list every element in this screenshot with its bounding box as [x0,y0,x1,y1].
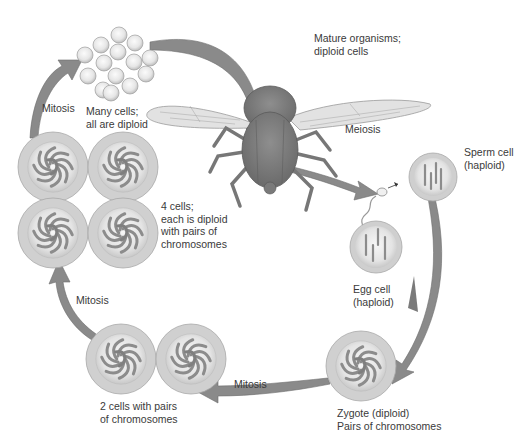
small-cell [93,37,109,53]
four-cell-stage-cell [18,132,88,202]
small-cell [80,68,96,84]
label-many-cells: Many cells; all are diploid [86,105,148,130]
small-cell [96,55,112,71]
fruit-fly-illustration [147,86,431,210]
zygote-cell [326,331,396,401]
label-meiosis: Meiosis [345,123,381,136]
small-cell [110,44,126,60]
label-two-cells: 2 cells with pairs of chromosomes [100,400,178,425]
small-cell [77,47,93,63]
diploid-cells [18,132,396,401]
label-mature-organisms: Mature organisms; diploid cells [314,32,401,57]
four-cell-stage-cell [88,198,158,268]
label-egg-cell: Egg cell (haploid) [353,283,394,308]
sperm-cell [409,153,457,201]
small-cell [122,78,138,94]
egg-cell [350,221,402,273]
four-cell-stage-cell [18,198,88,268]
small-cell [103,85,119,101]
two-cell-stage-cell [86,324,156,394]
label-four-cells: 4 cells; each is diploid with pairs of c… [161,200,228,250]
label-mitosis-2: Mitosis [76,294,109,307]
fly-left-wing [147,106,250,128]
small-cell [127,35,143,51]
two-cell-stage-cell [156,324,226,394]
many-cells-cluster [77,27,158,101]
fly-head [264,182,276,194]
fly-abdomen [242,112,298,188]
label-mitosis-3: Mitosis [42,102,75,115]
label-sperm-cell: Sperm cell (haploid) [464,146,514,171]
arrow-fertilization [392,186,442,384]
small-cell [126,54,142,70]
arrow-mitosis-3 [30,60,82,138]
arrow-egg-to-zygote [408,276,418,312]
four-cell-stage-cell [88,132,158,202]
small-cell [108,68,124,84]
small-cell [111,27,127,43]
small-cell [142,50,158,66]
small-cell [138,66,154,82]
label-mitosis-1: Mitosis [234,378,267,391]
label-zygote: Zygote (diploid) Pairs of chromosomes [337,407,441,432]
